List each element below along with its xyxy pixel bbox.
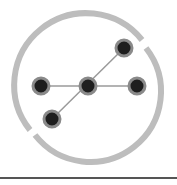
node-left xyxy=(33,78,49,94)
node-right xyxy=(129,78,145,94)
nodes xyxy=(33,40,145,127)
divider-line xyxy=(0,177,177,179)
node-center xyxy=(80,78,96,94)
network-graph-icon xyxy=(0,0,177,185)
node-top-right xyxy=(116,40,132,56)
node-bottom-left xyxy=(44,111,60,127)
